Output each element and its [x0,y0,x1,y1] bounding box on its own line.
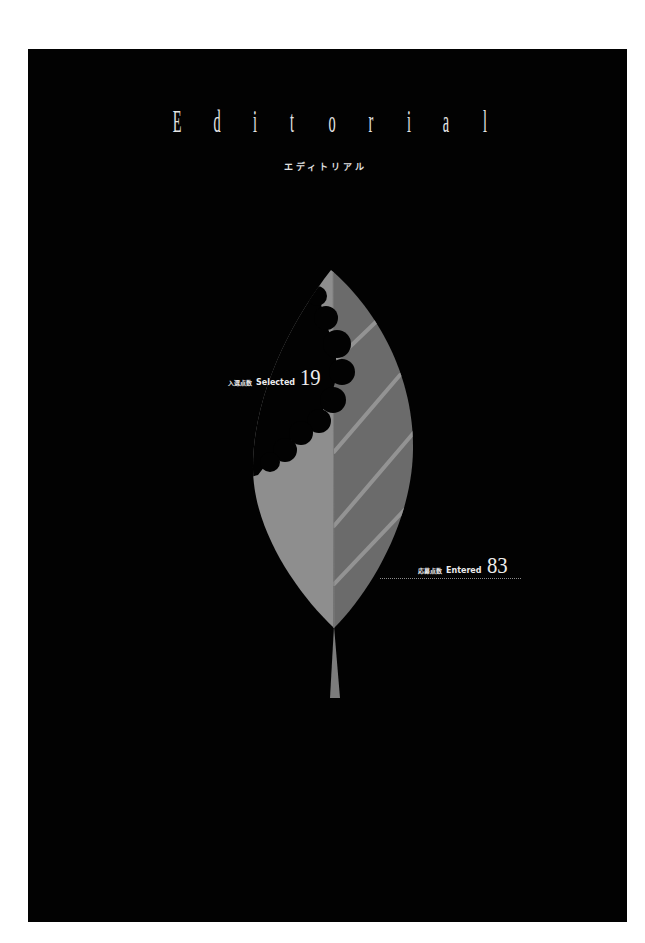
leaf-stem [330,626,340,698]
entered-label-en: Entered [446,566,482,575]
leaf-right-half [333,260,433,640]
selected-count-stat: 入選点数 Selected 19 [228,366,323,389]
leaf-body [240,260,433,640]
entered-count-stat: 応募点数 Entered 83 [418,554,510,577]
selected-label-en: Selected [256,378,295,387]
leaf-illustration [0,0,645,943]
selected-label-jp: 入選点数 [228,378,252,387]
entered-leader-line [380,578,521,579]
selected-value: 19 [300,366,321,389]
entered-value: 83 [487,554,508,577]
entered-label-jp: 応募点数 [418,566,442,575]
